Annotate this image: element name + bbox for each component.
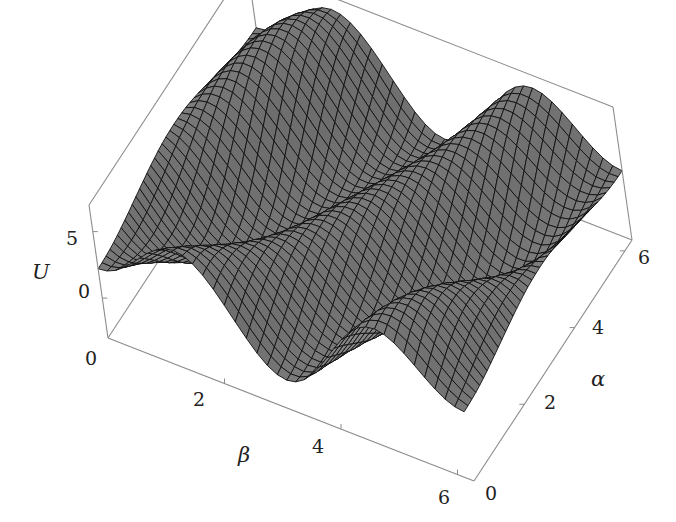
alpha-tick-2: 2 — [544, 393, 556, 412]
beta-tick-2: 2 — [193, 390, 205, 409]
beta-tick-4: 4 — [312, 437, 324, 456]
alpha-tick-6: 6 — [638, 248, 650, 267]
z-axis-title: U — [32, 262, 50, 283]
alpha-axis-title: α — [591, 369, 605, 390]
alpha-tick-0: 0 — [485, 484, 497, 503]
z-axis-origin-label: 0 — [85, 349, 97, 368]
surface-mesh — [98, 8, 622, 412]
beta-axis-title: β — [238, 445, 250, 466]
z-tick-0: 0 — [78, 282, 90, 301]
beta-tick-6: 6 — [438, 488, 450, 507]
alpha-tick-4: 4 — [592, 318, 604, 337]
surface-plot — [0, 0, 676, 522]
z-tick-5: 5 — [66, 229, 78, 248]
